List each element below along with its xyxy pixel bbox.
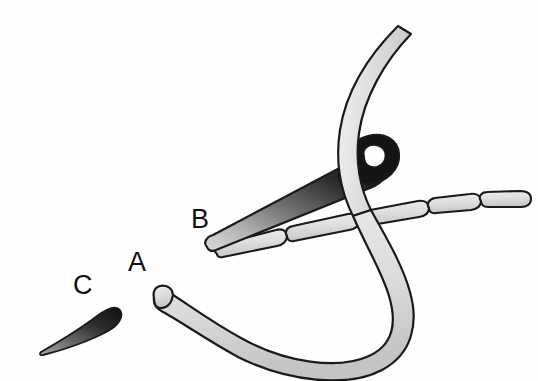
- diagram-illustration: [0, 0, 538, 381]
- thread-free-end: [154, 286, 173, 308]
- thorn-shape: [40, 307, 121, 355]
- figure-canvas: A B C: [0, 0, 538, 381]
- figure-label-a: A: [128, 249, 146, 276]
- detached-thorn: [40, 307, 121, 355]
- chain-segment-4: [428, 194, 481, 213]
- thread-upper-limb: [338, 26, 411, 216]
- needle-eye-hole: [364, 145, 386, 167]
- figure-label-b: B: [191, 206, 209, 233]
- figure-label-c: C: [73, 272, 93, 299]
- chain-segment-5: [480, 191, 531, 207]
